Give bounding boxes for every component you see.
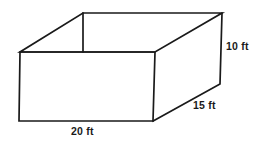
box-outline-svg <box>0 0 261 144</box>
height-dimension-label: 10 ft <box>226 41 249 52</box>
box-diagram: 10 ft 15 ft 20 ft <box>0 0 261 144</box>
front-face-edges <box>19 52 155 121</box>
width-dimension-label: 20 ft <box>71 126 94 137</box>
top-rim-edge <box>20 13 222 52</box>
depth-dimension-label: 15 ft <box>193 100 216 111</box>
